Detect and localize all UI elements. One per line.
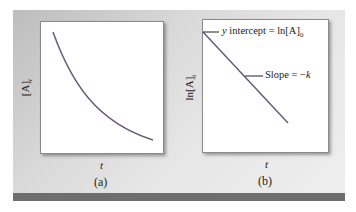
plot-b-xlabel: t (265, 158, 268, 170)
plot-a-xlabel: t (100, 159, 103, 171)
plot-a-caption: (a) (94, 175, 107, 190)
bottom-bar (13, 193, 345, 201)
slope-annotation: Slope = −k (265, 69, 311, 80)
linear-plot (203, 20, 328, 152)
intercept-annotation: y intercept = ln[A]0 (222, 25, 303, 39)
plot-b-ylabel: ln[A]t (183, 75, 198, 101)
plot-a-box (40, 21, 164, 154)
plot-b-caption: (b) (258, 174, 272, 189)
decay-curve (41, 22, 163, 153)
plot-b-box: y intercept = ln[A]0 Slope = −k (202, 19, 329, 153)
plot-a-ylabel: [A]t (19, 79, 34, 96)
